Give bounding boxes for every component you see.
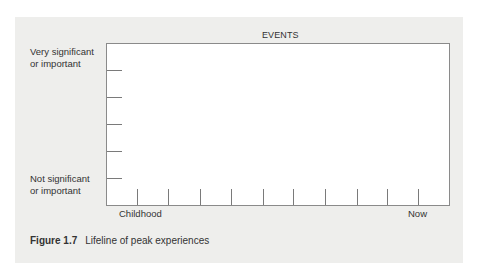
x-tick <box>387 189 388 205</box>
y-label-top-line1: Very significant <box>30 46 94 58</box>
plot-area <box>106 43 450 206</box>
x-tick <box>418 189 419 205</box>
x-label-end: Now <box>408 208 427 219</box>
y-label-top: Very significant or important <box>30 46 94 70</box>
x-label-start: Childhood <box>119 208 162 219</box>
y-tick <box>107 97 122 98</box>
figure-number: Figure 1.7 <box>30 235 77 246</box>
x-tick <box>137 189 138 205</box>
x-tick <box>168 189 169 205</box>
y-tick <box>107 124 122 125</box>
y-label-top-line2: or important <box>30 58 94 70</box>
y-tick <box>107 178 122 179</box>
y-tick <box>107 151 122 152</box>
x-tick <box>200 189 201 205</box>
x-tick <box>293 189 294 205</box>
x-tick <box>325 189 326 205</box>
y-label-bottom: Not significant or important <box>30 173 90 197</box>
x-tick <box>263 189 264 205</box>
x-tick <box>357 189 358 205</box>
figure-title: Lifeline of peak experiences <box>85 235 209 246</box>
y-label-bottom-line1: Not significant <box>30 173 90 185</box>
x-tick <box>231 189 232 205</box>
y-tick <box>107 70 122 71</box>
figure-caption: Figure 1.7Lifeline of peak experiences <box>30 235 209 246</box>
chart-title: EVENTS <box>262 30 299 40</box>
y-label-bottom-line2: or important <box>30 185 90 197</box>
